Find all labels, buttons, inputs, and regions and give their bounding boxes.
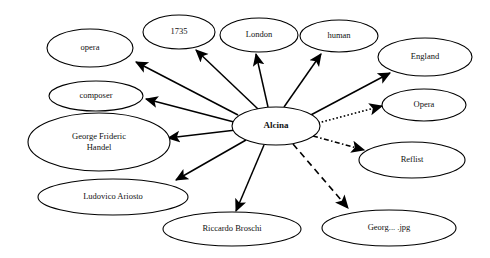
node-label-england: England: [411, 51, 440, 61]
graph-edge-alcina-to-ariosto: [176, 140, 246, 180]
graph-edge-alcina-to-y1735: [196, 50, 258, 109]
node-label-georgjpg: Georg... .jpg: [368, 222, 411, 232]
graph-node-georgjpg[interactable]: Georg... .jpg: [322, 210, 456, 246]
graph-edge-alcina-to-composer: [146, 99, 234, 122]
graph-edge-alcina-to-london: [256, 54, 268, 107]
graph-edge-alcina-to-opera_lc: [136, 62, 238, 115]
graph-node-broschi[interactable]: Riccardo Broschi: [163, 212, 301, 246]
node-label-line: London: [246, 29, 273, 39]
node-label-line: Alcina: [263, 120, 289, 130]
node-label-composer: composer: [79, 90, 112, 100]
node-label-reflist: Reflist: [401, 154, 424, 164]
graph-edge-alcina-to-reflist: [313, 136, 364, 150]
node-label-broschi: Riccardo Broschi: [202, 223, 262, 233]
node-label-line: Reflist: [401, 154, 424, 164]
node-label-y1735: 1735: [171, 26, 188, 36]
graph-node-ariosto[interactable]: Ludovico Ariosto: [38, 179, 188, 215]
node-label-opera_uc: Opera: [414, 99, 435, 109]
node-label-human: human: [327, 30, 351, 40]
graph-node-composer[interactable]: composer: [49, 81, 143, 111]
node-label-line: human: [327, 30, 351, 40]
node-label-line: composer: [79, 90, 112, 100]
node-layer: opera1735LondonhumanEnglandcomposerOpera…: [28, 15, 472, 246]
graph-edge-alcina-to-broschi: [236, 145, 264, 211]
node-label-line: England: [411, 51, 440, 61]
graph-node-human[interactable]: human: [300, 20, 378, 52]
node-label-line: Handel: [87, 141, 112, 151]
graph-node-y1735[interactable]: 1735: [143, 15, 215, 49]
node-label-london: London: [246, 29, 273, 39]
node-label-line: opera: [81, 42, 100, 52]
graph-node-opera_uc[interactable]: Opera: [382, 89, 466, 121]
graph-node-alcina[interactable]: Alcina: [232, 107, 320, 145]
graph-node-london[interactable]: London: [220, 18, 298, 52]
graph-edge-alcina-to-handel: [168, 130, 236, 138]
node-label-line: Ludovico Ariosto: [83, 191, 143, 201]
graph-edge-alcina-to-human: [284, 54, 321, 107]
node-label-line: George Frideric: [72, 130, 126, 140]
node-label-line: Riccardo Broschi: [202, 223, 262, 233]
graph-edge-alcina-to-england: [307, 73, 390, 117]
graph-node-handel[interactable]: George FridericHandel: [28, 113, 170, 171]
graph-edge-alcina-to-opera_uc: [318, 106, 382, 123]
graph-node-opera_lc[interactable]: opera: [47, 29, 133, 67]
graph-edge-alcina-to-georgjpg: [293, 144, 348, 208]
node-label-alcina: Alcina: [263, 120, 289, 130]
node-label-line: Georg... .jpg: [368, 222, 411, 232]
node-label-line: Opera: [414, 99, 435, 109]
node-label-line: 1735: [171, 26, 188, 36]
graph-node-england[interactable]: England: [378, 38, 472, 76]
knowledge-graph-canvas: opera1735LondonhumanEnglandcomposerOpera…: [0, 0, 490, 258]
graph-node-reflist[interactable]: Reflist: [359, 142, 465, 178]
node-label-ariosto: Ludovico Ariosto: [83, 191, 143, 201]
node-label-opera_lc: opera: [81, 42, 100, 52]
